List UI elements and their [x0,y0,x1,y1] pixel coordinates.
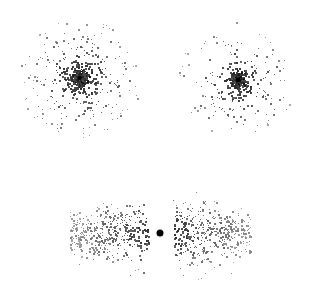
scatter-plot-canvas [0,0,317,286]
particle-distribution-figure [0,0,317,286]
